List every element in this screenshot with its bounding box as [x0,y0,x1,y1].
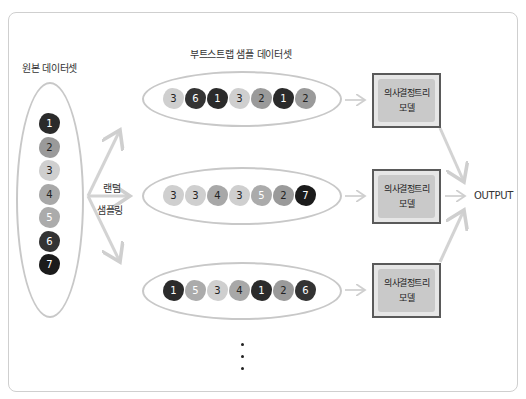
original-data-point: 4 [39,184,60,205]
sample-data-point: 3 [229,185,250,206]
model-label-line2: 모델 [399,291,414,306]
sample-data-point: 1 [251,280,272,301]
sample-data-point: 1 [163,280,184,301]
sample-data-point: 2 [295,88,316,109]
random-label-line1: 랜덤 [103,180,120,195]
sample-data-point: 3 [163,88,184,109]
original-data-point: 6 [39,231,60,252]
sample-data-point: 6 [185,88,206,109]
bootstrap-dataset-title: 부트스트랩 샘플 데이터셋 [190,46,291,61]
original-data-point: 2 [39,137,60,158]
sample-data-point: 5 [185,280,206,301]
sample-data-point: 4 [207,185,228,206]
decision-tree-model-1: 의사결정트리 모델 [372,73,441,128]
model-label-line2: 모델 [399,197,414,212]
original-dataset-title: 원본 데이터셋 [22,60,77,75]
model-label-line1: 의사결정트리 [384,276,429,291]
random-label-line2: 샘플링 [97,202,123,217]
original-data-point: 7 [39,254,60,275]
model-label-line1: 의사결정트리 [384,86,429,101]
sample-data-point: 3 [207,280,228,301]
sample-data-point: 2 [251,88,272,109]
arrow-model-1-to-output [440,128,464,182]
ellipsis-dot [241,355,244,358]
decision-tree-model-2: 의사결정트리 모델 [372,169,441,224]
sample-data-point: 5 [251,185,272,206]
sample-data-point: 1 [207,88,228,109]
original-data-point: 1 [39,113,60,134]
output-label: OUTPUT [474,190,513,201]
decision-tree-model-3: 의사결정트리 모델 [372,263,441,318]
sample-data-point: 3 [229,88,250,109]
sample-data-point: 1 [273,88,294,109]
original-data-point: 5 [39,207,60,228]
sample-data-point: 2 [273,185,294,206]
model-label-line2: 모델 [399,101,414,116]
sample-data-point: 7 [295,185,316,206]
sample-data-point: 3 [163,185,184,206]
sample-data-point: 3 [185,185,206,206]
sample-data-point: 4 [229,280,250,301]
model-label-line1: 의사결정트리 [384,182,429,197]
sample-data-point: 6 [295,280,316,301]
ellipsis-dot [241,367,244,370]
arrow-model-3-to-output [440,210,464,262]
sample-data-point: 2 [273,280,294,301]
ellipsis-dot [241,343,244,346]
original-data-point: 3 [39,160,60,181]
